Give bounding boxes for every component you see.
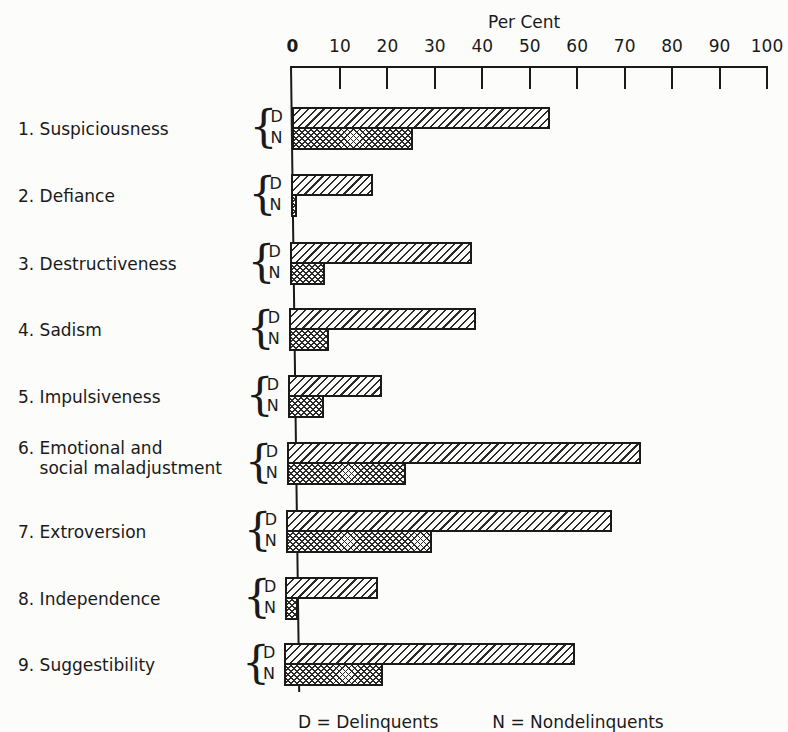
x-tick-label: 80 <box>661 36 683 56</box>
category-label: 5. Impulsiveness <box>18 387 161 407</box>
series-n-label: N <box>263 663 275 685</box>
bar-d <box>288 375 382 397</box>
category-label: 8. Independence <box>18 589 161 609</box>
series-d-label: D <box>266 441 278 463</box>
x-tick-label: 70 <box>614 36 636 56</box>
category-label: 2. Defiance <box>18 186 115 206</box>
category-label: 3. Destructiveness <box>18 254 177 274</box>
x-tick-mark <box>719 67 721 89</box>
series-n-label: N <box>269 262 281 284</box>
chart-caption-partial: D = Delinquents N = Nondelinquents <box>298 712 664 732</box>
category-label: 1. Suspiciousness <box>18 119 169 139</box>
x-tick-label: 100 <box>751 36 783 56</box>
x-tick-label: 20 <box>377 36 399 56</box>
bar-n <box>286 530 432 553</box>
x-tick-label: 0 <box>287 36 299 56</box>
bar-d <box>284 643 575 665</box>
bar-d <box>285 577 378 599</box>
bar-d <box>291 174 373 196</box>
bar-d <box>287 442 641 464</box>
bar-n <box>291 194 297 217</box>
series-n-label: N <box>266 462 278 484</box>
x-tick-mark <box>576 67 578 89</box>
series-n-label: N <box>268 328 280 350</box>
x-tick-mark <box>624 67 626 89</box>
series-d-label: D <box>271 106 283 128</box>
x-tick-label: 10 <box>329 36 351 56</box>
bar-n <box>284 663 383 686</box>
category-label: 6. Emotional and social maladjustment <box>18 438 222 478</box>
bar-d <box>290 242 472 264</box>
category-label: 7. Extroversion <box>18 522 146 542</box>
series-n-label: N <box>267 395 279 417</box>
x-tick-mark <box>529 67 531 89</box>
category-label: 9. Suggestibility <box>18 655 155 675</box>
series-d-label: D <box>269 241 281 263</box>
x-tick-mark <box>339 67 341 89</box>
x-tick-mark <box>434 67 436 89</box>
x-tick-label: 60 <box>566 36 588 56</box>
category-label: 4. Sadism <box>18 320 102 340</box>
x-tick-mark <box>481 67 483 89</box>
bar-n <box>285 597 298 620</box>
series-n-label: N <box>265 530 277 552</box>
series-n-label: N <box>271 127 283 149</box>
bar-d <box>289 308 476 330</box>
x-axis-title: Per Cent <box>488 12 560 32</box>
bar-n <box>289 328 330 351</box>
x-tick-mark <box>766 67 768 89</box>
x-tick-label: 50 <box>519 36 541 56</box>
bar-n <box>288 395 324 418</box>
x-tick-label: 90 <box>709 36 731 56</box>
series-d-label: D <box>265 509 277 531</box>
series-d-label: D <box>263 642 275 664</box>
series-d-label: D <box>264 576 276 598</box>
bar-n <box>287 462 407 485</box>
series-n-label: N <box>264 597 276 619</box>
x-tick-mark <box>386 67 388 89</box>
series-n-label: N <box>270 194 282 216</box>
bar-d <box>292 107 551 129</box>
x-tick-mark <box>671 67 673 89</box>
x-axis-line <box>291 66 768 68</box>
x-tick-label: 30 <box>424 36 446 56</box>
series-d-label: D <box>267 374 279 396</box>
series-d-label: D <box>270 173 282 195</box>
bar-n <box>290 262 325 285</box>
x-tick-label: 40 <box>471 36 493 56</box>
bar-n <box>292 127 413 150</box>
bar-d <box>286 510 612 532</box>
series-d-label: D <box>268 307 280 329</box>
